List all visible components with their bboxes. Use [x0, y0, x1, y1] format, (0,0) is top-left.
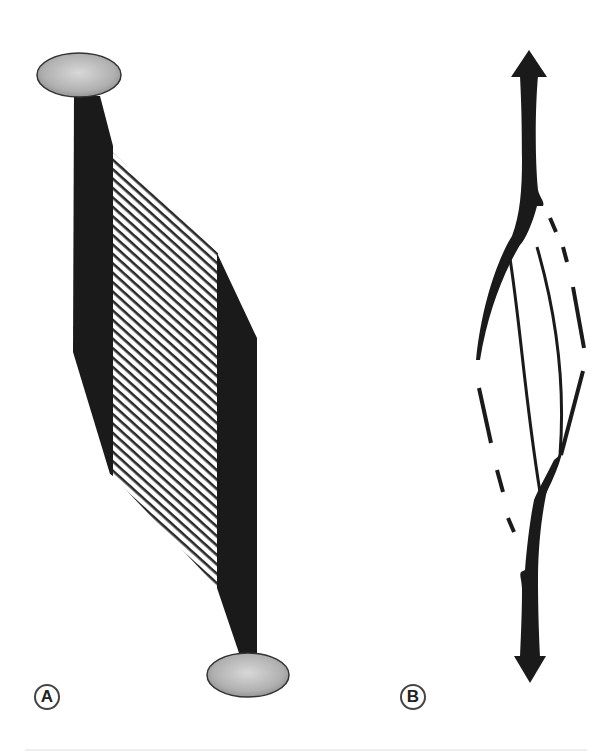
muscle-fibers: [95, 135, 225, 595]
panel-label-a: A: [34, 684, 60, 710]
panel-b-fusiform-muscle: [476, 50, 584, 683]
proximal-tendon: [73, 96, 113, 476]
panel-label-b: B: [400, 684, 426, 710]
distal-bone: [207, 653, 289, 697]
arrow-down-icon: [514, 656, 546, 683]
distal-tendon: [217, 253, 257, 656]
arrow-up-icon: [511, 50, 547, 77]
contracted-outline-left: [479, 388, 514, 532]
panel-a-pennate-muscle: [37, 53, 289, 697]
upper-tendon: [476, 76, 543, 360]
proximal-bone: [37, 53, 121, 97]
bottom-divider: [25, 749, 587, 751]
inner-fiber-left: [509, 252, 540, 492]
inner-fiber-right: [537, 247, 562, 492]
muscle-diagram: [0, 0, 612, 754]
